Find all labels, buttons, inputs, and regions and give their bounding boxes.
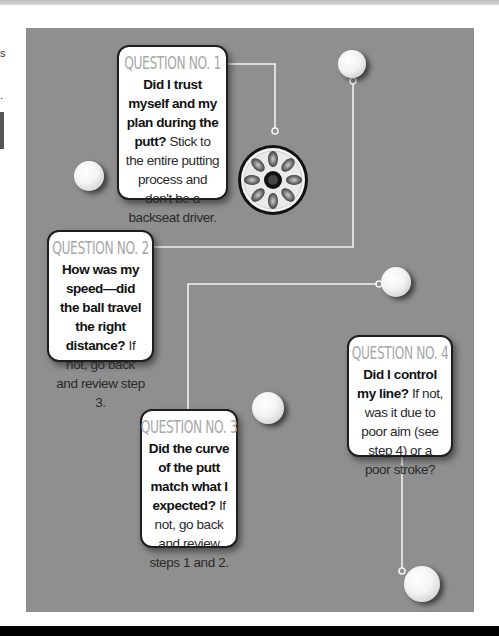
question-body: Did the curve of the putt match what I e… [148,439,230,572]
question-body: Did I control my line? If not, was it du… [355,365,445,479]
connector-q2-end [350,78,356,84]
question-bold: Did the curve of the putt match what I e… [149,441,229,513]
connector-q1-end [272,128,278,134]
connector-q4-end [399,568,405,574]
golf-ball-mid-right [381,267,411,297]
bottom-black-bar [0,626,499,636]
golf-ball-bottom [404,566,440,602]
golf-ball-left [74,161,104,191]
question-body: How was my speed—did the ball travel the… [55,260,146,412]
question-body: Did I trust myself and my plan during th… [125,75,220,227]
question-title: QUESTION NO. 3 [138,417,240,437]
question-card-1: QUESTION NO. 1 Did I trust myself and my… [117,45,228,200]
question-card-4: QUESTION NO. 4 Did I control my line? If… [347,335,453,457]
question-title: QUESTION NO. 2 [46,238,155,258]
question-card-2: QUESTION NO. 2 How was my speed—did the … [47,230,154,362]
connector-q1 [228,64,275,128]
golf-ball-center [252,392,284,424]
question-card-3: QUESTION NO. 3 Did the curve of the putt… [140,409,238,548]
hole-cup-icon [237,144,309,216]
question-title: QUESTION NO. 1 [117,53,229,73]
golf-ball-top [338,50,366,78]
question-title: QUESTION NO. 4 [346,343,454,363]
